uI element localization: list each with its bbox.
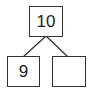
part-value-left: 9: [19, 62, 28, 82]
part-box-right-empty[interactable]: [52, 56, 86, 87]
whole-value: 10: [37, 12, 56, 32]
connector-right: [46, 36, 68, 57]
whole-box: 10: [29, 6, 63, 37]
part-box-left: 9: [7, 56, 40, 87]
connector-left: [23, 36, 46, 57]
